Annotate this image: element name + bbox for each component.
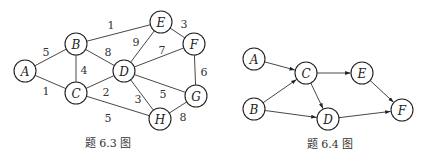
edge-weight-B-E: 1	[108, 19, 115, 32]
edge-weight-E-F: 3	[181, 18, 188, 31]
edge-weight-D-E: 9	[133, 36, 140, 49]
node-label: C	[301, 67, 310, 81]
node-label: A	[20, 65, 30, 79]
edge-weight-D-H: 3	[135, 93, 142, 106]
node-label: F	[397, 104, 407, 118]
figure-caption: 题 6.3 图	[85, 137, 132, 150]
node-C: C	[295, 62, 317, 84]
figure-6-3-weighted-graph: 51418259753368ABCDEFGH题 6.3 图	[14, 11, 208, 150]
edge-E-F	[370, 80, 393, 102]
diagram-canvas: 51418259753368ABCDEFGH题 6.3 图 ABCDEF题 6.…	[0, 0, 428, 161]
node-E: E	[351, 62, 373, 84]
node-B: B	[65, 33, 87, 55]
edge-A-C	[35, 75, 66, 88]
node-F: F	[391, 99, 413, 121]
node-F: F	[183, 33, 205, 55]
node-label: G	[191, 90, 201, 104]
edge-weight-G-H: 8	[180, 111, 187, 124]
node-A: A	[243, 48, 265, 70]
edge-weight-F-G: 6	[201, 66, 208, 79]
node-label: B	[71, 38, 81, 52]
node-label: D	[322, 113, 333, 127]
node-H: H	[149, 108, 171, 130]
node-label: E	[156, 16, 166, 30]
edge-A-B	[35, 49, 67, 66]
node-label: H	[154, 113, 166, 127]
edge-weight-B-C: 4	[81, 64, 88, 77]
node-A: A	[14, 60, 36, 82]
node-D: D	[113, 60, 135, 82]
node-C: C	[65, 82, 87, 104]
edge-A-C	[265, 62, 295, 70]
node-label: C	[71, 87, 80, 101]
edge-D-F	[339, 111, 391, 117]
edge-weight-B-D: 8	[105, 46, 112, 59]
node-label: D	[118, 65, 129, 79]
node-label: A	[249, 53, 259, 67]
node-G: G	[185, 85, 207, 107]
node-B: B	[243, 98, 265, 120]
node-E: E	[150, 11, 172, 33]
node-label: F	[189, 38, 199, 52]
figure-6-4-directed-graph: ABCDEF题 6.4 图	[243, 48, 413, 151]
edge-B-E	[87, 25, 151, 41]
edge-weight-D-F: 7	[159, 44, 166, 57]
edge-B-D	[265, 110, 317, 117]
edge-weight-C-H: 5	[105, 112, 112, 125]
node-label: B	[249, 103, 259, 117]
edge-F-G	[194, 55, 195, 85]
edge-weight-D-G: 5	[160, 88, 167, 101]
edge-weight-A-B: 5	[43, 46, 50, 59]
node-label: E	[357, 67, 367, 81]
edge-C-D	[86, 76, 114, 89]
node-D: D	[317, 108, 339, 130]
edge-weight-A-C: 1	[43, 85, 50, 98]
edge-C-D	[311, 83, 323, 109]
figure-caption: 题 6.4 图	[307, 138, 354, 151]
edge-B-C	[263, 80, 297, 103]
edge-weight-C-D: 2	[103, 86, 110, 99]
